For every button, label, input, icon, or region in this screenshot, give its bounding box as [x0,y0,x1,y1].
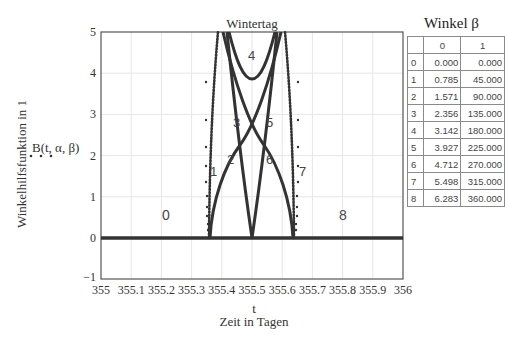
header-corner [408,37,424,54]
cell-rad: 3.927 [424,139,461,156]
cell-deg: 90.000 [461,88,505,105]
y-axis-ticks: 5 4 3 2 1 0 −1 [83,25,96,284]
row-index: 6 [408,156,424,173]
svg-text:355: 355 [92,283,110,297]
cell-deg: 225.000 [461,139,505,156]
table-row: 43.142180.000 [408,122,505,139]
svg-text:−1: −1 [83,270,96,284]
row-index: 2 [408,88,424,105]
svg-text:3: 3 [90,107,96,121]
cell-deg: 45.000 [461,71,505,88]
svg-text:5: 5 [90,25,96,39]
column-header-0: 0 [424,37,461,54]
gridlines [101,32,403,279]
table-row: 21.57190.000 [408,88,505,105]
svg-text:2: 2 [90,149,96,163]
cell-rad: 4.712 [424,156,461,173]
table-title: Winkel β [424,15,479,32]
table-row: 53.927225.000 [408,139,505,156]
table-row: 75.498315.000 [408,173,505,190]
y-axis-label: Winkelhilfsfunktion in 1 [14,100,29,228]
svg-text:355.9: 355.9 [359,283,386,297]
curve-label-2: 2 [227,152,234,167]
svg-text:4: 4 [90,66,96,80]
legend-dotted-marker [30,155,53,158]
svg-text:355.1: 355.1 [118,283,145,297]
table-row: 86.283360.000 [408,190,505,207]
curve-label-1: 1 [210,164,217,179]
winkel-table: 0 1 00.0000.000 10.78545.000 21.57190.00… [407,36,505,207]
row-index: 7 [408,173,424,190]
legend-label: B(t, α, β) [32,140,79,155]
curve-label-3: 3 [233,115,240,130]
row-index: 4 [408,122,424,139]
chart-title: Wintertag [226,16,278,31]
x-axis-label: Zeit in Tagen [220,314,289,329]
cell-deg: 0.000 [461,54,505,71]
svg-text:355.4: 355.4 [208,283,235,297]
table-row: 00.0000.000 [408,54,505,71]
svg-text:355.3: 355.3 [178,283,205,297]
row-index: 0 [408,54,424,71]
cell-rad: 0.785 [424,71,461,88]
cell-rad: 3.142 [424,122,461,139]
svg-text:355.5: 355.5 [239,283,266,297]
cell-rad: 2.356 [424,105,461,122]
svg-text:355.8: 355.8 [329,283,356,297]
cell-deg: 315.000 [461,173,505,190]
curve-label-5: 5 [266,115,273,130]
row-index: 8 [408,190,424,207]
curve-label-7: 7 [299,164,306,179]
x-axis-ticks: 355 355.1 355.2 355.3 355.4 355.5 355.6 … [92,283,412,297]
cell-rad: 5.498 [424,173,461,190]
svg-text:1: 1 [90,190,96,204]
cell-deg: 360.000 [461,190,505,207]
cell-deg: 270.000 [461,156,505,173]
curve-label-4: 4 [248,48,255,63]
curve-label-0: 0 [162,207,170,223]
curve-label-6: 6 [266,152,273,167]
cell-deg: 180.000 [461,122,505,139]
svg-text:0: 0 [90,231,96,245]
table-row: 32.356135.000 [408,105,505,122]
svg-text:356: 356 [394,283,412,297]
svg-text:355.2: 355.2 [148,283,175,297]
row-index: 1 [408,71,424,88]
cell-rad: 6.283 [424,190,461,207]
table-header-row: 0 1 [408,37,505,54]
cell-rad: 0.000 [424,54,461,71]
table-row: 64.712270.000 [408,156,505,173]
cell-deg: 135.000 [461,105,505,122]
row-index: 3 [408,105,424,122]
column-header-1: 1 [461,37,505,54]
cell-rad: 1.571 [424,88,461,105]
table-row: 10.78545.000 [408,71,505,88]
svg-text:355.7: 355.7 [299,283,326,297]
row-index: 5 [408,139,424,156]
curve-1-arc [210,32,281,238]
svg-text:355.6: 355.6 [269,283,296,297]
curve-label-8: 8 [339,207,347,223]
